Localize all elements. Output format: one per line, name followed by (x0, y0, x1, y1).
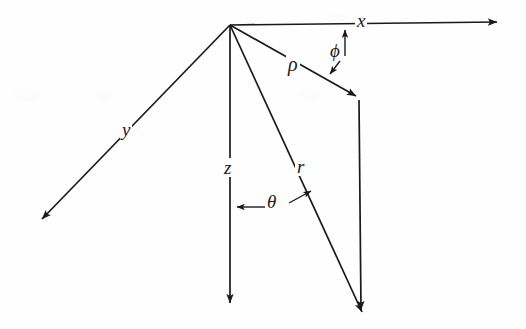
vector-label-r: r (295, 157, 306, 176)
vector-label-rho: ρ (286, 54, 300, 74)
angle-arrow-phi-to-rho (330, 61, 340, 74)
angle-label-phi: ϕ (329, 41, 341, 60)
vector-line-z-projection (359, 100, 361, 310)
axis-label-x: x (355, 11, 367, 30)
axis-line-y (42, 25, 230, 219)
angle-label-theta: θ (265, 192, 278, 211)
coordinate-axes-svg (0, 0, 526, 329)
axis-label-z: z (222, 158, 233, 177)
coordinate-diagram-figure: x y z ρ r ϕ θ (0, 0, 526, 329)
axis-label-y: y (120, 120, 132, 139)
angle-arrow-theta-to-r (289, 191, 311, 203)
